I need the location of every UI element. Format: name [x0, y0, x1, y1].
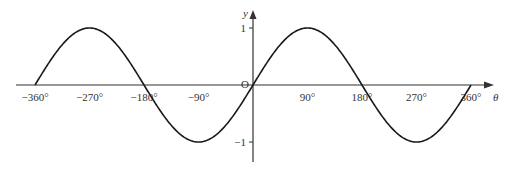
x-tick-label: −360°: [21, 91, 48, 103]
y-axis-arrow-icon: [250, 10, 257, 19]
x-tick-labels: −360°−270°−180°−90°90°180°270°360°: [21, 91, 481, 103]
x-axis-arrow-icon: [484, 82, 494, 89]
y-tick-label: −1: [234, 136, 246, 148]
x-tick-label: −90°: [188, 91, 210, 103]
x-axis-label: θ: [493, 91, 499, 103]
sine-graph: 1−1 −360°−270°−180°−90°90°180°270°360° O…: [0, 0, 505, 172]
y-axis-label: y: [242, 7, 248, 19]
x-tick-label: −270°: [76, 91, 103, 103]
x-tick-label: 270°: [406, 91, 427, 103]
origin-label: O: [241, 78, 249, 90]
x-tick-label: 90°: [300, 91, 315, 103]
axes: [16, 10, 494, 162]
y-tick-label: 1: [241, 22, 247, 34]
